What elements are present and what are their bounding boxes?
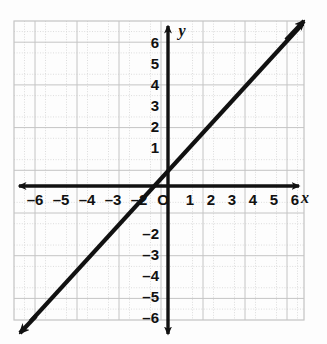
x-tick-label-3: 3 bbox=[228, 191, 236, 208]
y-tick-label-4: 4 bbox=[151, 76, 160, 93]
y-tick-label-neg2: –2 bbox=[142, 225, 159, 242]
x-tick-label-6: 6 bbox=[291, 191, 299, 208]
x-tick-label-neg3: –3 bbox=[105, 191, 122, 208]
coordinate-plane-svg: –6 –5 –4 –3 –2 1 2 3 4 5 6 6 5 4 3 2 1 –… bbox=[0, 0, 327, 344]
y-tick-label-neg3: –3 bbox=[142, 246, 159, 263]
x-tick-label-2: 2 bbox=[207, 191, 215, 208]
y-axis-label: y bbox=[176, 22, 186, 40]
x-tick-label-5: 5 bbox=[270, 191, 278, 208]
y-tick-label-2: 2 bbox=[151, 118, 159, 135]
x-tick-label-1: 1 bbox=[186, 191, 194, 208]
y-tick-label-1: 1 bbox=[151, 139, 159, 156]
x-axis-label: x bbox=[300, 189, 309, 206]
x-tick-label-4: 4 bbox=[249, 191, 258, 208]
x-tick-label-neg4: –4 bbox=[79, 191, 96, 208]
x-tick-label-neg2: –2 bbox=[131, 191, 148, 208]
x-tick-label-neg5: –5 bbox=[53, 191, 70, 208]
y-tick-label-neg5: –5 bbox=[142, 288, 159, 305]
y-tick-label-3: 3 bbox=[151, 97, 159, 114]
coordinate-plane-figure: –6 –5 –4 –3 –2 1 2 3 4 5 6 6 5 4 3 2 1 –… bbox=[0, 0, 327, 344]
y-tick-label-6: 6 bbox=[151, 34, 159, 51]
origin-label: O bbox=[157, 191, 169, 208]
x-tick-label-neg6: –6 bbox=[27, 191, 44, 208]
y-tick-label-neg6: –6 bbox=[142, 309, 159, 326]
y-tick-label-neg4: –4 bbox=[142, 267, 159, 284]
y-tick-label-5: 5 bbox=[151, 55, 159, 72]
